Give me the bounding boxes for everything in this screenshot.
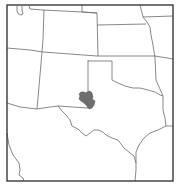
border-ok-ar-tx-la	[156, 80, 166, 126]
border-missouri-river	[143, 17, 156, 80]
border-sd-ne	[140, 5, 173, 17]
border-co-ks	[82, 5, 98, 56]
border-red-river	[112, 80, 163, 96]
lake-outline	[17, 6, 23, 15]
border-co-nm	[7, 48, 173, 59]
species-range-area	[79, 91, 95, 109]
border-ut-co-az-nm	[37, 10, 44, 109]
border-mexico-west	[7, 133, 24, 181]
border-rio-grande	[58, 106, 136, 181]
border-tx-coast	[136, 126, 166, 163]
border-ne-ks	[97, 24, 146, 25]
border-ok-panhandle	[88, 61, 112, 80]
border-nm-tx-south	[7, 103, 88, 109]
range-map	[0, 0, 176, 195]
